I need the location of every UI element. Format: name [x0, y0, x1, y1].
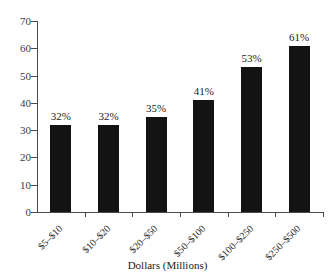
bar — [241, 67, 262, 212]
bar-value-label: 32% — [41, 111, 81, 122]
y-axis-tick-label: 30 — [1, 125, 31, 136]
x-axis-tick — [132, 213, 133, 217]
y-axis-tick-label: 40 — [1, 97, 31, 108]
x-axis-tick — [323, 213, 324, 217]
y-axis-tick-label: 20 — [1, 152, 31, 163]
y-axis-tick-label: 70 — [1, 16, 31, 27]
x-axis-title: Dollars (Millions) — [0, 260, 335, 271]
bar — [289, 46, 310, 212]
bar-value-label: 35% — [136, 103, 176, 114]
y-axis-tick-label: 50 — [1, 70, 31, 81]
y-axis-tick-label: 60 — [1, 43, 31, 54]
bar-value-label: 61% — [279, 32, 319, 43]
y-axis-tick-label: 10 — [1, 179, 31, 190]
x-axis-tick — [228, 213, 229, 217]
bar-value-label: 32% — [89, 111, 129, 122]
x-axis-tick — [85, 213, 86, 217]
bar — [50, 125, 71, 212]
y-axis-tick-label: 0 — [1, 207, 31, 218]
bar — [193, 100, 214, 212]
bar — [98, 125, 119, 212]
bar-chart: 010203040506070 32%32%35%41%53%61% $5–$1… — [0, 0, 335, 280]
bar-value-label: 41% — [184, 86, 224, 97]
x-axis-tick — [275, 213, 276, 217]
bar — [146, 117, 167, 213]
y-axis-tick — [31, 212, 37, 213]
x-axis-tick — [180, 213, 181, 217]
bar-value-label: 53% — [232, 53, 272, 64]
